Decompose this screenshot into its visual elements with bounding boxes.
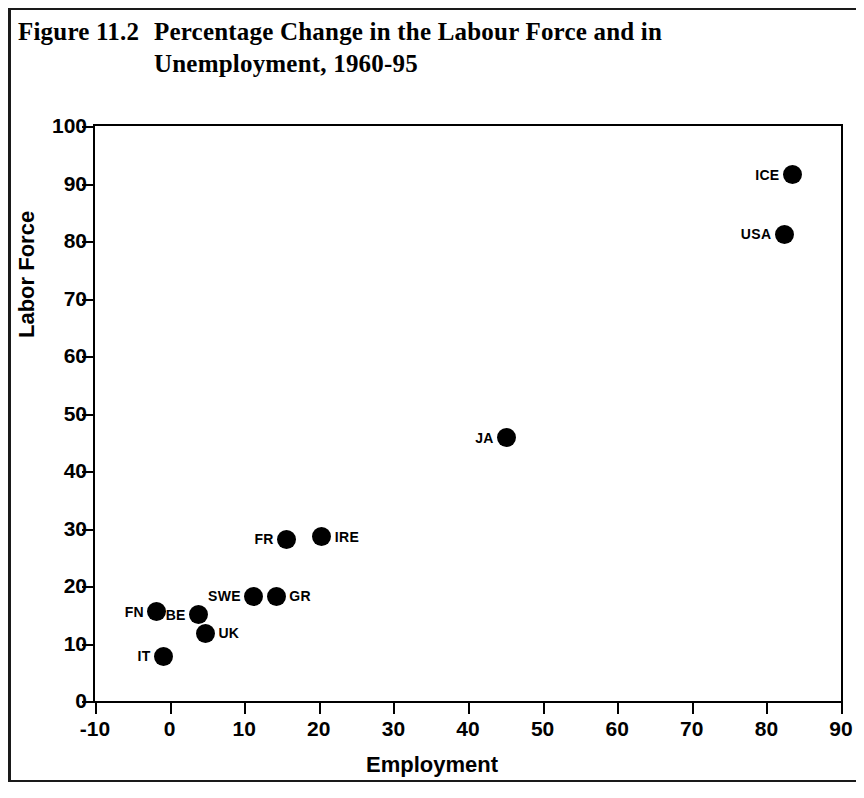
x-tick-mark <box>393 701 395 714</box>
x-tick-label: 60 <box>606 717 629 741</box>
y-tick-label: 40 <box>64 459 87 483</box>
x-tick-mark <box>617 701 619 714</box>
data-point-label-ja: JA <box>475 430 494 446</box>
y-tick-label: 50 <box>64 402 87 426</box>
y-tick-label: 90 <box>64 172 87 196</box>
data-point-it[interactable] <box>154 647 173 666</box>
data-point-uk[interactable] <box>196 624 215 643</box>
x-tick-mark <box>170 701 172 714</box>
data-point-fr[interactable] <box>277 530 296 549</box>
y-tick-label: 30 <box>64 517 87 541</box>
x-tick-mark <box>468 701 470 714</box>
y-axis-title: Labor Force <box>14 211 40 338</box>
plot-area: 0102030405060708090100-10010203040506070… <box>93 124 843 703</box>
y-tick-label: 100 <box>52 114 87 138</box>
data-point-label-it: IT <box>138 648 151 664</box>
data-point-usa[interactable] <box>775 225 794 244</box>
x-tick-mark <box>841 701 843 714</box>
data-point-ja[interactable] <box>497 428 516 447</box>
y-tick-label: 80 <box>64 229 87 253</box>
data-point-ire[interactable] <box>312 527 331 546</box>
x-tick-label: 70 <box>680 717 703 741</box>
data-point-label-ice: ICE <box>755 167 779 183</box>
data-point-label-be: BE <box>166 607 186 623</box>
x-tick-mark <box>543 701 545 714</box>
data-point-label-usa: USA <box>741 226 771 242</box>
x-tick-label: 0 <box>164 717 176 741</box>
x-tick-mark <box>95 701 97 714</box>
data-point-be[interactable] <box>189 605 208 624</box>
x-tick-label: 40 <box>456 717 479 741</box>
data-point-label-fn: FN <box>125 604 144 620</box>
x-tick-label: -10 <box>80 717 110 741</box>
y-tick-label: 0 <box>75 689 87 713</box>
x-tick-label: 50 <box>531 717 554 741</box>
data-point-ice[interactable] <box>783 165 802 184</box>
y-tick-label: 60 <box>64 344 87 368</box>
data-point-fn[interactable] <box>147 602 166 621</box>
data-point-label-gr: GR <box>289 588 311 604</box>
data-point-label-ire: IRE <box>335 529 359 545</box>
x-tick-mark <box>692 701 694 714</box>
y-tick-label: 70 <box>64 287 87 311</box>
data-point-label-swe: SWE <box>208 588 241 604</box>
data-point-swe[interactable] <box>244 587 263 606</box>
x-tick-label: 20 <box>307 717 330 741</box>
y-tick-label: 20 <box>64 574 87 598</box>
x-tick-label: 30 <box>382 717 405 741</box>
data-point-label-fr: FR <box>254 531 273 547</box>
data-point-gr[interactable] <box>267 587 286 606</box>
x-tick-mark <box>766 701 768 714</box>
x-tick-label: 90 <box>829 717 852 741</box>
x-tick-mark <box>244 701 246 714</box>
data-point-label-uk: UK <box>218 625 239 641</box>
x-tick-label: 80 <box>755 717 778 741</box>
y-tick-label: 10 <box>64 632 87 656</box>
x-axis-title: Employment <box>0 752 864 778</box>
x-tick-label: 10 <box>233 717 256 741</box>
x-tick-mark <box>319 701 321 714</box>
scatter-chart: Labor Force Employment 01020304050607080… <box>0 0 864 798</box>
